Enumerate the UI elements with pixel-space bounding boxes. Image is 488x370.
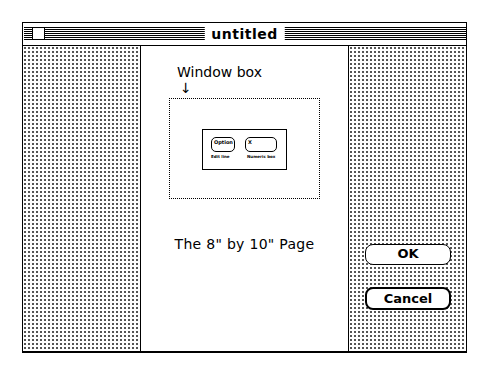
left-margin-area [23,46,141,351]
mini-dialog-preview: Option Edit line X Numeric box [202,129,287,170]
ok-button[interactable]: OK [365,244,451,265]
mini-edit-field: Option [211,137,235,152]
title-bar[interactable]: untitled [23,23,466,46]
mini-numeric-caption: Numeric box [247,154,275,159]
mini-numeric-field: X [245,137,277,152]
mini-edit-caption: Edit line [211,154,230,159]
cancel-button[interactable]: Cancel [365,287,451,310]
window-box[interactable]: Option Edit line X Numeric box [169,98,320,199]
page-caption: The 8" by 10" Page [141,236,348,252]
down-arrow-icon: ↓ [180,81,192,95]
right-margin-area: OK Cancel [348,46,466,351]
window-title: untitled [204,25,284,43]
close-box-icon[interactable] [32,27,45,40]
window-box-label: Window box [177,64,262,80]
page-preview: Window box ↓ Option Edit line X Numeric … [141,46,348,351]
dialog-window: untitled Window box ↓ Option Edit line X… [22,22,467,353]
